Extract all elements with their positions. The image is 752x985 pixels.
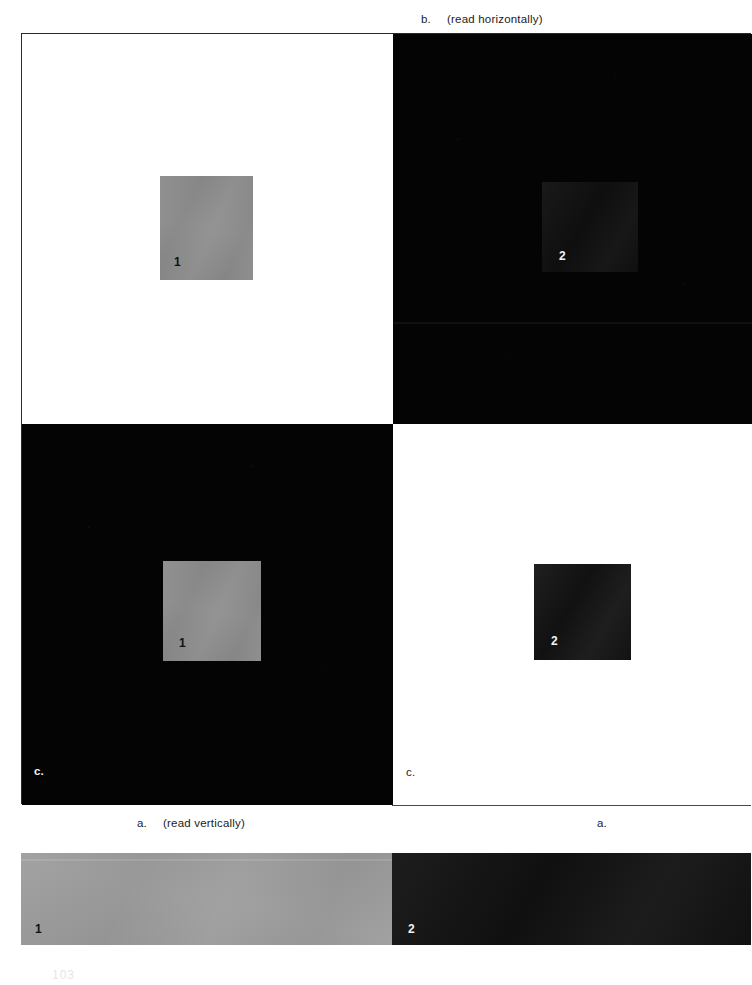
page-number: 103 bbox=[52, 968, 75, 982]
caption-below-a-left-text: (read vertically) bbox=[163, 817, 245, 829]
caption-top-b-text: (read horizontally) bbox=[447, 13, 543, 25]
strip-sheen bbox=[21, 859, 392, 861]
caption-below-a-right: a. bbox=[597, 817, 607, 829]
strip-segment-gray: 1 bbox=[21, 853, 392, 945]
caption-below-a-left-tag: a. bbox=[137, 817, 163, 829]
quadrant-bottom-right: 2 c. bbox=[393, 424, 752, 805]
patch-label-2-top-right: 2 bbox=[559, 250, 566, 262]
patch-label-1-top-left: 1 bbox=[174, 256, 181, 268]
quadrant-top-left: 1 bbox=[22, 34, 393, 424]
strip-label-1: 1 bbox=[35, 923, 42, 935]
caption-corner-c-right: c. bbox=[406, 766, 415, 778]
caption-below-a-right-tag: a. bbox=[597, 817, 607, 829]
scan-band bbox=[393, 322, 752, 324]
comparison-strip: 1 2 bbox=[21, 853, 751, 945]
caption-corner-c-left-tag: c. bbox=[34, 765, 44, 777]
caption-top-b: b.(read horizontally) bbox=[421, 13, 543, 25]
caption-corner-c-left: c. bbox=[34, 765, 44, 777]
caption-top-b-tag: b. bbox=[421, 13, 447, 25]
quadrant-bottom-left: 1 c. bbox=[22, 424, 393, 805]
patch-dark-on-black: 2 bbox=[542, 182, 638, 272]
strip-label-2: 2 bbox=[408, 923, 415, 935]
figure-bottom-hairline bbox=[392, 805, 751, 806]
figure-grid: 1 2 1 c. 2 c. bbox=[21, 33, 751, 804]
patch-label-1-bottom-left: 1 bbox=[179, 637, 186, 649]
caption-below-a-left: a.(read vertically) bbox=[137, 817, 245, 829]
patch-label-2-bottom-right: 2 bbox=[551, 635, 558, 647]
patch-gray-on-black: 1 bbox=[163, 561, 261, 661]
patch-gray-on-white: 1 bbox=[160, 176, 253, 280]
patch-dark-on-white: 2 bbox=[534, 564, 631, 660]
quadrant-top-right: 2 bbox=[393, 34, 752, 424]
strip-segment-dark: 2 bbox=[392, 853, 751, 945]
caption-corner-c-right-tag: c. bbox=[406, 766, 415, 778]
